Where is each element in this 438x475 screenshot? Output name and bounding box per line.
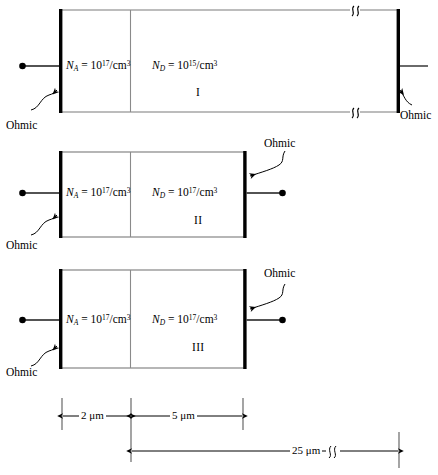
structure-I-roman-numeral: I bbox=[196, 87, 200, 99]
structure-II-n-doping-label: ND = 1017/cm3 bbox=[152, 187, 217, 200]
structure-II-p-doping-label: NA = 1017/cm3 bbox=[66, 187, 131, 200]
structure-I-right-ohmic-contact bbox=[397, 9, 400, 113]
structure-II-left-ohmic-arrow bbox=[31, 215, 57, 235]
structure-I-n-doping-label: ND = 1015/cm3 bbox=[152, 60, 217, 73]
dimension-label-25um: 25 μm bbox=[290, 445, 322, 456]
structure-I-right-ohmic-arrow bbox=[400, 90, 412, 105]
structure-III-right-ohmic-label: Ohmic bbox=[264, 268, 295, 280]
structure-I-left-ohmic-contact bbox=[59, 9, 62, 113]
structure-III-right-ohmic-arrow bbox=[250, 284, 285, 309]
structure-II-right-ohmic-label: Ohmic bbox=[264, 138, 295, 150]
structure-III-roman-numeral: III bbox=[192, 342, 204, 354]
structure-III-n-doping-label: ND = 1017/cm3 bbox=[152, 314, 217, 327]
structure-III-right-ohmic-contact bbox=[243, 269, 246, 369]
dimension-bar-graphics bbox=[62, 398, 399, 468]
structure-II-roman-numeral: II bbox=[194, 215, 202, 227]
structure-II-left-terminal-dot bbox=[19, 190, 26, 197]
break-symbol-icon-bottom-I bbox=[352, 108, 359, 118]
break-symbol-icon-dimension bbox=[329, 446, 336, 458]
structure-I-left-ohmic-arrow bbox=[31, 90, 57, 110]
structure-II-left-ohmic-contact bbox=[59, 151, 62, 238]
structure-III-right-terminal-dot bbox=[279, 317, 286, 324]
dimension-label-2um: 2 μm bbox=[79, 410, 106, 421]
dimension-label-5um: 5 μm bbox=[170, 410, 197, 421]
structure-I-left-ohmic-label: Ohmic bbox=[6, 120, 37, 132]
structure-III-p-doping-label: NA = 1017/cm3 bbox=[66, 314, 131, 327]
structure-I-left-terminal-dot bbox=[19, 63, 26, 70]
structure-II-left-ohmic-label: Ohmic bbox=[6, 240, 37, 252]
structure-III-left-ohmic-label: Ohmic bbox=[6, 367, 37, 379]
structure-III-left-ohmic-arrow bbox=[31, 346, 57, 366]
break-symbol-icon-top-I bbox=[352, 6, 359, 16]
structure-II-right-terminal-dot bbox=[279, 190, 286, 197]
structure-I-p-doping-label: NA = 1017/cm3 bbox=[66, 60, 131, 73]
figure-canvas: NA = 1017/cm3 ND = 1015/cm3 I Ohmic Ohmi… bbox=[0, 0, 438, 475]
structure-II-right-ohmic-contact bbox=[243, 151, 246, 238]
structure-I-right-ohmic-label: Ohmic bbox=[400, 110, 431, 122]
structure-III-left-terminal-dot bbox=[19, 317, 26, 324]
structure-II-right-ohmic-arrow bbox=[250, 151, 285, 176]
structure-III-left-ohmic-contact bbox=[59, 269, 62, 369]
